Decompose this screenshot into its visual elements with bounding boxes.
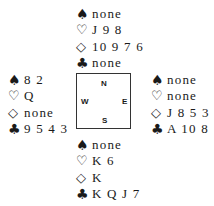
club-icon: ♣: [76, 55, 92, 71]
east-diamonds-row: ◇ J 8 5 3: [151, 105, 210, 121]
heart-icon: ♡: [8, 88, 24, 104]
diamond-icon: ◇: [151, 105, 167, 121]
spade-icon: ♠: [8, 72, 24, 88]
south-hearts-row: ♡ K 6: [76, 153, 141, 169]
compass-box: N W E S: [76, 73, 131, 129]
heart-icon: ♡: [76, 22, 92, 38]
north-hearts-cards: J 9 8: [92, 22, 123, 38]
compass-north-label: N: [101, 79, 107, 88]
south-hand: ♠ none ♡ K 6 ◇ K ♣ K Q J 7: [76, 137, 141, 202]
diamond-icon: ◇: [8, 105, 24, 121]
south-diamonds-row: ◇ K: [76, 170, 141, 186]
west-spades-row: ♠ 8 2: [8, 72, 68, 88]
spade-icon: ♠: [76, 6, 92, 22]
compass-west-label: W: [81, 97, 89, 106]
east-spades-row: ♠ none: [151, 72, 210, 88]
west-hand: ♠ 8 2 ♡ Q ◇ none ♣ 9 5 4 3: [8, 72, 68, 137]
compass-south-label: S: [102, 116, 107, 125]
south-hearts-cards: K 6: [92, 153, 115, 169]
east-hand: ♠ none ♡ none ◇ J 8 5 3 ♣ A 10 8: [151, 72, 210, 137]
club-icon: ♣: [8, 121, 24, 137]
east-spades-cards: none: [167, 72, 197, 88]
west-hearts-cards: Q: [24, 88, 35, 104]
club-icon: ♣: [76, 186, 92, 202]
heart-icon: ♡: [76, 153, 92, 169]
west-diamonds-row: ◇ none: [8, 105, 68, 121]
spade-icon: ♠: [151, 72, 167, 88]
north-spades-row: ♠ none: [76, 6, 144, 22]
west-hearts-row: ♡ Q: [8, 88, 68, 104]
west-clubs-row: ♣ 9 5 4 3: [8, 121, 68, 137]
north-spades-cards: none: [92, 6, 122, 22]
heart-icon: ♡: [151, 88, 167, 104]
west-clubs-cards: 9 5 4 3: [24, 121, 68, 137]
south-clubs-row: ♣ K Q J 7: [76, 186, 141, 202]
south-spades-cards: none: [92, 137, 122, 153]
east-clubs-row: ♣ A 10 8: [151, 121, 210, 137]
north-diamonds-row: ◇ 10 9 7 6: [76, 39, 144, 55]
diamond-icon: ◇: [76, 39, 92, 55]
north-hearts-row: ♡ J 9 8: [76, 22, 144, 38]
diamond-icon: ◇: [76, 170, 92, 186]
club-icon: ♣: [151, 121, 167, 137]
compass-east-label: E: [122, 97, 127, 106]
east-clubs-cards: A 10 8: [167, 121, 209, 137]
west-diamonds-cards: none: [24, 105, 54, 121]
west-spades-cards: 8 2: [24, 72, 44, 88]
north-clubs-row: ♣ none: [76, 55, 144, 71]
south-spades-row: ♠ none: [76, 137, 141, 153]
spade-icon: ♠: [76, 137, 92, 153]
north-hand: ♠ none ♡ J 9 8 ◇ 10 9 7 6 ♣ none: [76, 6, 144, 71]
north-diamonds-cards: 10 9 7 6: [92, 39, 144, 55]
east-diamonds-cards: J 8 5 3: [167, 105, 210, 121]
east-hearts-cards: none: [167, 88, 197, 104]
north-clubs-cards: none: [92, 55, 122, 71]
east-hearts-row: ♡ none: [151, 88, 210, 104]
south-clubs-cards: K Q J 7: [92, 186, 141, 202]
south-diamonds-cards: K: [92, 170, 103, 186]
